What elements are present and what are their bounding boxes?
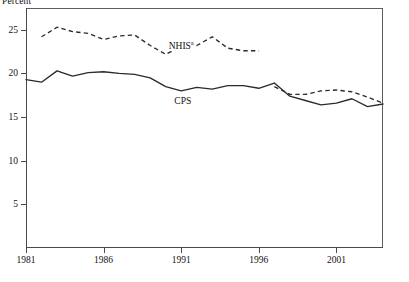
- x-tick-mark: [181, 248, 182, 253]
- y-axis-label: Percent: [2, 0, 31, 6]
- x-tick-mark: [336, 248, 337, 253]
- series-line-nhis: [274, 87, 383, 104]
- y-tick-label: 25: [9, 25, 19, 35]
- series-line-cps: [26, 71, 383, 107]
- series-label-cps: CPS: [173, 96, 193, 106]
- series-canvas: [26, 8, 383, 248]
- y-tick-label: 5: [13, 199, 18, 209]
- x-tick-label: 1986: [94, 255, 113, 265]
- x-tick-mark: [259, 248, 260, 253]
- series-label-nhis: NHISa: [167, 39, 195, 51]
- footnote-marker: a: [191, 39, 194, 46]
- y-tick-label: 20: [9, 68, 19, 78]
- y-tick-label: 10: [9, 156, 19, 166]
- line-chart: Percent 510152025 19811986199119962001 N…: [0, 0, 409, 282]
- x-tick-mark: [104, 248, 105, 253]
- x-tick-label: 1996: [249, 255, 268, 265]
- series-label-text: CPS: [174, 96, 191, 106]
- x-tick-mark: [26, 248, 27, 253]
- plot-area: 510152025 19811986199119962001 NHISaCPS: [26, 8, 383, 248]
- x-tick-label: 1981: [17, 255, 36, 265]
- x-tick-label: 1991: [172, 255, 191, 265]
- series-label-text: NHIS: [169, 41, 191, 51]
- x-tick-label: 2001: [327, 255, 346, 265]
- y-tick-label: 15: [9, 112, 19, 122]
- series-line-nhis: [42, 27, 259, 54]
